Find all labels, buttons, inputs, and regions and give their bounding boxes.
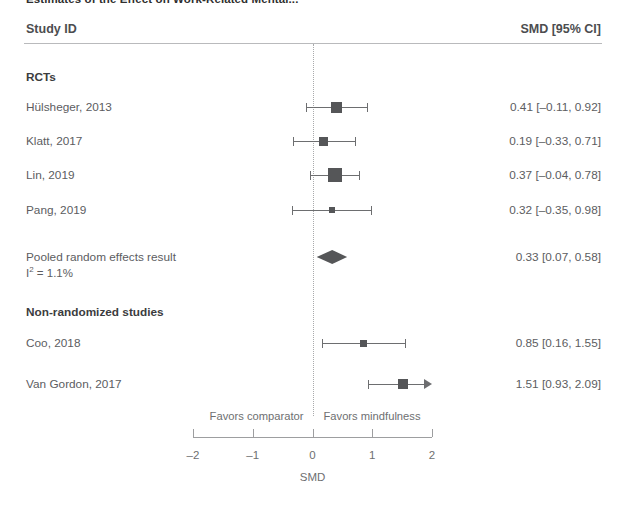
axis-title: SMD xyxy=(273,471,353,483)
axis-tick xyxy=(193,429,194,437)
axis-tick xyxy=(432,429,433,437)
favors-comparator-label: Favors comparator xyxy=(210,410,304,422)
axis-line xyxy=(193,437,432,438)
axis-tick xyxy=(313,429,314,437)
axis-tick-label: 2 xyxy=(412,449,452,461)
axis-tick xyxy=(372,429,373,437)
axis-tick-label: 0 xyxy=(293,449,333,461)
axis-tick-label: 1 xyxy=(352,449,392,461)
x-axis: SMD Favors comparator Favors mindfulness… xyxy=(0,0,625,512)
axis-tick-label: –2 xyxy=(173,449,213,461)
axis-tick xyxy=(253,429,254,437)
axis-tick-label: –1 xyxy=(233,449,273,461)
favors-mindfulness-label: Favors mindfulness xyxy=(324,410,421,422)
